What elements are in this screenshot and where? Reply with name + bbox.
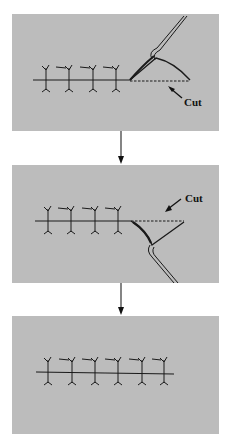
stitch-icon xyxy=(44,357,168,385)
down-arrow-icon xyxy=(116,283,126,316)
stitch-icon xyxy=(44,206,122,234)
step-1-illustration xyxy=(12,14,219,131)
step-2-panel: Cut xyxy=(12,165,219,283)
cut-label: Cut xyxy=(185,192,203,204)
incision-line xyxy=(36,372,174,374)
stitch-icon xyxy=(42,65,120,92)
needle-holder-icon xyxy=(151,16,187,60)
step-2-illustration xyxy=(12,165,219,283)
step-1-panel: Cut xyxy=(12,14,219,131)
step-3-panel xyxy=(12,316,219,434)
step-3-illustration xyxy=(12,316,219,434)
needle-holder-icon xyxy=(148,245,178,283)
cut-label: Cut xyxy=(184,96,202,108)
suture-loop xyxy=(131,221,184,245)
down-arrow-icon xyxy=(116,131,126,165)
